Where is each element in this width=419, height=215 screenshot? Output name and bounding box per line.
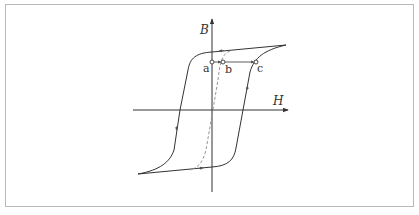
direction-arrow-icon — [177, 126, 178, 129]
b-axis-label: B — [199, 23, 209, 37]
point-a-label: a — [203, 62, 210, 75]
point-c-label: c — [257, 62, 263, 75]
point-b-label: b — [225, 63, 232, 76]
hysteresis-diagram: B H a b c — [0, 0, 419, 215]
direction-arrow-icon — [247, 87, 248, 90]
h-axis-label: H — [272, 94, 284, 108]
direction-arrow-icon — [220, 51, 224, 52]
point-a — [210, 60, 214, 64]
direction-arrow-icon — [198, 168, 202, 169]
